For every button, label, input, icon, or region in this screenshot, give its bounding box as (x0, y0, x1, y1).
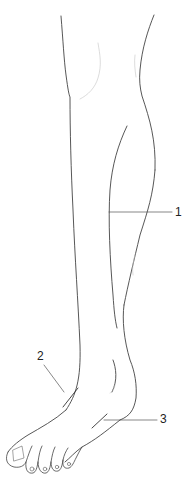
site-marks (63, 388, 107, 428)
callout-label-3: 3 (160, 413, 167, 425)
leg-outline (8, 15, 155, 462)
toes (6, 446, 82, 473)
shading (80, 43, 136, 393)
site-mark-3 (92, 414, 107, 428)
leader-lines (44, 212, 172, 420)
leader-line-2 (44, 365, 64, 392)
callout-label-1: 1 (175, 206, 182, 218)
little-toe (63, 447, 82, 468)
callout-label-2: 2 (37, 350, 44, 362)
site-mark-2 (63, 388, 78, 407)
leg-foot-diagram (0, 0, 195, 477)
